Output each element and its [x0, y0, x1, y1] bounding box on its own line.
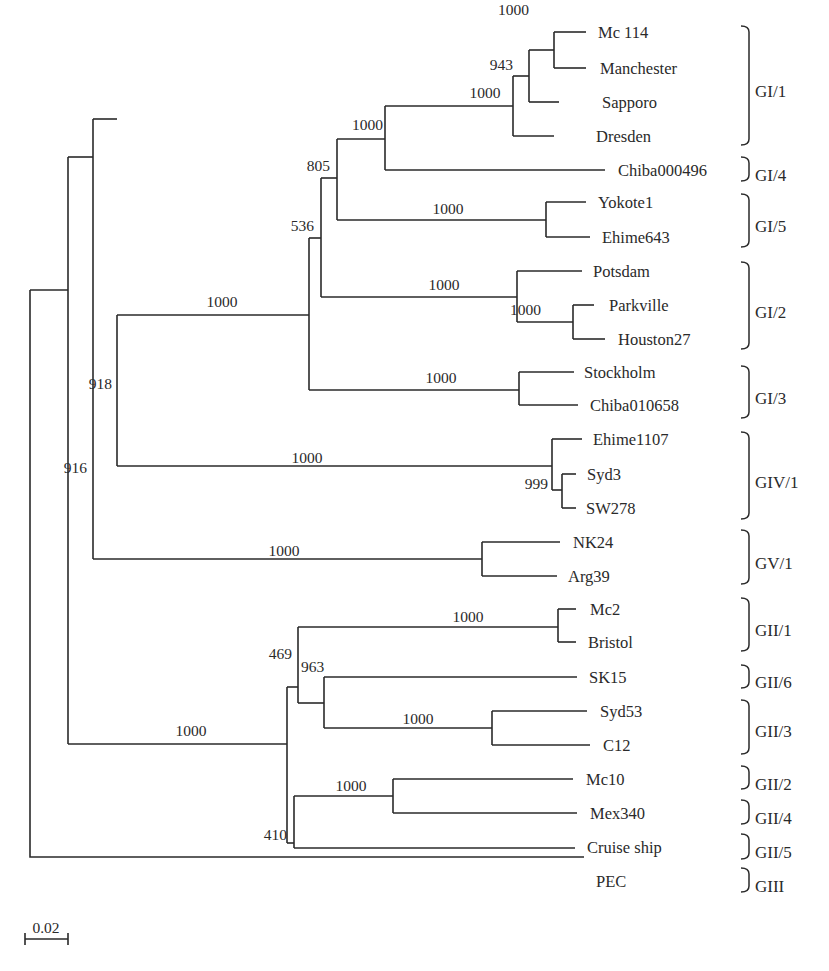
genogroup-label: GI/2 — [755, 303, 786, 322]
phylogenetic-tree: Mc 114ManchesterSapporoDresdenChiba00049… — [0, 0, 829, 971]
leaf-label-chiba010658: Chiba010658 — [590, 396, 679, 415]
bracket-gii-2 — [741, 766, 749, 789]
bootstrap-value: 1000 — [470, 84, 501, 101]
genogroup-label: GI/3 — [755, 389, 786, 408]
leaf-label-dresden: Dresden — [596, 127, 651, 146]
leaf-label-sw278: SW278 — [586, 499, 636, 518]
bracket-giii — [741, 868, 749, 892]
bootstrap-value: 1000 — [498, 1, 529, 18]
bracket-gi-2 — [741, 262, 749, 349]
bootstrap-value: 805 — [307, 157, 331, 174]
bootstrap-value: 1000 — [352, 116, 383, 133]
leaf-label-cruise_ship: Cruise ship — [587, 838, 662, 857]
scale-bar-label: 0.02 — [32, 919, 59, 936]
leaf-label-ehime643: Ehime643 — [602, 228, 670, 247]
leaf-label-mc114: Mc 114 — [598, 23, 648, 42]
leaf-label-syd53: Syd53 — [600, 702, 642, 721]
bootstrap-value: 1000 — [176, 722, 207, 739]
bootstrap-value: 916 — [64, 459, 88, 476]
genogroup-label: GII/2 — [755, 775, 792, 794]
leaf-label-mc10: Mc10 — [586, 770, 625, 789]
genogroup-label: GII/1 — [755, 621, 792, 640]
leaf-label-arg39: Arg39 — [568, 567, 610, 586]
bracket-gii-4 — [741, 800, 749, 824]
bracket-gi-3 — [741, 366, 749, 418]
genogroup-label: GII/5 — [755, 843, 792, 862]
bootstrap-value: 943 — [490, 56, 514, 73]
leaf-label-sapporo: Sapporo — [602, 93, 657, 112]
leaf-label-yokote1: Yokote1 — [598, 193, 653, 212]
bracket-gi-5 — [741, 194, 749, 247]
leaf-label-mc2: Mc2 — [590, 600, 620, 619]
bracket-giv-1 — [741, 432, 749, 519]
leaf-label-chiba000496: Chiba000496 — [618, 161, 707, 180]
leaf-label-mex340: Mex340 — [590, 804, 645, 823]
bracket-gv-1 — [741, 530, 749, 584]
genogroup-label: GI/1 — [755, 82, 786, 101]
leaf-label-bristol: Bristol — [588, 633, 633, 652]
leaf-label-houston27: Houston27 — [618, 330, 690, 349]
bootstrap-value: 918 — [89, 375, 113, 392]
genogroup-label: GI/4 — [755, 166, 787, 185]
bootstrap-value: 410 — [264, 826, 288, 843]
bootstrap-value: 1000 — [453, 608, 484, 625]
leaf-label-manchester: Manchester — [600, 59, 677, 78]
scale-bar: 0.02 — [25, 919, 68, 945]
branch-root-pec — [30, 290, 584, 857]
bracket-gi-4 — [741, 157, 749, 181]
bootstrap-value: 1000 — [269, 542, 300, 559]
leaf-label-ehime1107: Ehime1107 — [593, 430, 668, 449]
leaf-label-sk15: SK15 — [589, 668, 627, 687]
bracket-gii-3 — [741, 700, 749, 754]
bracket-gii-1 — [741, 598, 749, 651]
leaf-labels: Mc 114ManchesterSapporoDresdenChiba00049… — [568, 23, 707, 891]
bootstrap-value: 1000 — [510, 301, 541, 318]
genogroup-label: GI/5 — [755, 217, 786, 236]
bootstrap-value: 1000 — [433, 200, 464, 217]
leaf-label-syd3: Syd3 — [587, 465, 621, 484]
genogroup-label: GIII — [755, 877, 785, 896]
bootstrap-value: 1000 — [207, 293, 238, 310]
bootstrap-value: 469 — [269, 645, 293, 662]
genogroup-label: GII/4 — [755, 809, 792, 828]
bracket-gi-1 — [741, 26, 749, 145]
genogroup-label: GII/3 — [755, 722, 792, 741]
genogroup-brackets: GI/1GI/4GI/5GI/2GI/3GIV/1GV/1GII/1GII/6G… — [741, 26, 798, 896]
bootstrap-value: 999 — [525, 475, 549, 492]
bootstrap-value: 1000 — [292, 449, 323, 466]
bootstrap-value: 1000 — [426, 369, 457, 386]
bootstrap-value: 1000 — [429, 276, 460, 293]
bootstrap-value: 1000 — [403, 710, 434, 727]
tree-branches — [30, 32, 605, 857]
leaf-label-pec: PEC — [596, 872, 626, 891]
leaf-label-parkville: Parkville — [609, 296, 669, 315]
bracket-gii-6 — [741, 665, 749, 688]
bracket-gii-5 — [741, 834, 749, 859]
genogroup-label: GIV/1 — [755, 473, 798, 492]
leaf-label-stockholm: Stockholm — [584, 363, 656, 382]
bootstrap-labels: 1000943100010008051000536100010001000100… — [64, 1, 549, 843]
genogroup-label: GV/1 — [755, 554, 793, 573]
leaf-label-c12: C12 — [603, 736, 631, 755]
leaf-label-nk24: NK24 — [573, 533, 613, 552]
leaf-label-potsdam: Potsdam — [593, 262, 650, 281]
bootstrap-value: 963 — [301, 658, 325, 675]
bootstrap-value: 1000 — [336, 777, 367, 794]
genogroup-label: GII/6 — [755, 673, 792, 692]
bootstrap-value: 536 — [291, 217, 315, 234]
